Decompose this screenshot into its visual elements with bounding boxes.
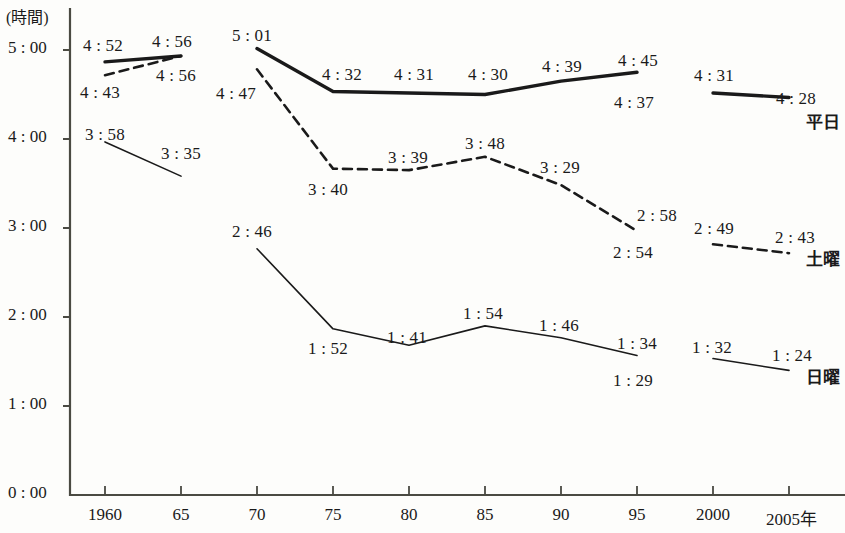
value-label-saturday-5: 3 : 48 bbox=[465, 134, 505, 154]
value-label-sunday-4: 1 : 41 bbox=[387, 328, 427, 348]
value-label-weekday-8: 4 : 37 bbox=[614, 93, 654, 113]
value-label-sunday-6: 1 : 46 bbox=[539, 316, 579, 336]
value-label-saturday-1: 4 : 56 bbox=[156, 66, 196, 86]
value-label-weekday-7: 4 : 45 bbox=[618, 51, 658, 71]
series-label-sunday: 日曜 bbox=[806, 363, 840, 388]
value-label-sunday-2: 2 : 46 bbox=[232, 222, 272, 242]
value-label-saturday-4: 3 : 39 bbox=[388, 148, 428, 168]
value-label-sunday-1: 3 : 35 bbox=[161, 144, 201, 164]
value-label-saturday-9: 2 : 49 bbox=[694, 219, 734, 239]
series-label-saturday: 土曜 bbox=[806, 245, 840, 270]
series-lines bbox=[105, 48, 789, 370]
value-label-weekday-3: 4 : 32 bbox=[322, 65, 362, 85]
value-label-saturday-2: 4 : 47 bbox=[216, 84, 256, 104]
value-label-weekday-4: 4 : 31 bbox=[394, 65, 434, 85]
value-label-saturday-6: 3 : 29 bbox=[540, 158, 580, 178]
value-label-weekday-2: 5 : 01 bbox=[232, 26, 272, 46]
value-label-sunday-5: 1 : 54 bbox=[463, 304, 503, 324]
value-label-weekday-5: 4 : 30 bbox=[468, 65, 508, 85]
value-label-weekday-9: 4 : 31 bbox=[694, 66, 734, 86]
series-label-weekday: 平日 bbox=[806, 108, 840, 133]
value-label-sunday-0: 3 : 58 bbox=[85, 125, 125, 145]
value-label-sunday-9: 1 : 32 bbox=[692, 338, 732, 358]
value-label-sunday-3: 1 : 52 bbox=[308, 339, 348, 359]
value-label-sunday-8: 1 : 29 bbox=[613, 371, 653, 391]
value-label-saturday-7: 2 : 58 bbox=[637, 206, 677, 226]
value-label-weekday-10: 4 : 28 bbox=[776, 89, 816, 109]
value-label-saturday-3: 3 : 40 bbox=[308, 180, 348, 200]
value-label-weekday-6: 4 : 39 bbox=[542, 57, 582, 77]
value-label-weekday-0: 4 : 52 bbox=[83, 36, 123, 56]
value-label-weekday-1: 4 : 56 bbox=[152, 32, 192, 52]
value-label-sunday-7: 1 : 34 bbox=[617, 334, 657, 354]
tv-viewing-time-chart: (時間) 5 : 004 : 003 : 002 : 001 : 000 : 0… bbox=[0, 0, 845, 533]
value-label-saturday-0: 4 : 43 bbox=[80, 83, 120, 103]
value-label-saturday-8: 2 : 54 bbox=[613, 243, 653, 263]
